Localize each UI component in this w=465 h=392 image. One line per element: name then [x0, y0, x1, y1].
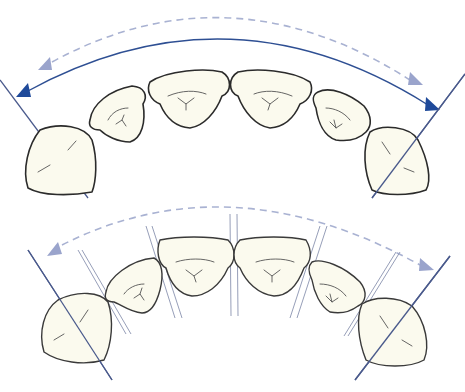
bottom-panel [28, 207, 450, 380]
tooth-left-incisor [148, 70, 229, 128]
diagram-canvas [0, 0, 465, 392]
tooth-left-molar [26, 126, 96, 195]
dashed-arc-arrow [52, 18, 410, 80]
tooth-right-incisor [234, 237, 310, 296]
tooth-left-incisor [158, 237, 234, 296]
tooth-right-molar [365, 127, 429, 194]
tooth-left-molar [42, 293, 112, 362]
dental-diagram [0, 0, 465, 392]
dashed-arrowhead-right [408, 72, 423, 85]
solid-arrowhead-right [425, 97, 440, 111]
tooth-right-incisor [231, 70, 312, 128]
tooth-right-molar [359, 298, 427, 366]
dashed-arrowhead-left [38, 57, 52, 70]
solid-arc-arrow [26, 39, 428, 105]
dashed-arrowhead-left [47, 242, 62, 256]
top-panel [0, 18, 465, 198]
tooth-left-premolar [89, 86, 145, 142]
tooth-right-premolar [309, 261, 365, 313]
solid-arrowhead-left [16, 83, 31, 97]
dashed-arrowhead-right [419, 258, 434, 271]
tooth-right-premolar [313, 90, 370, 141]
